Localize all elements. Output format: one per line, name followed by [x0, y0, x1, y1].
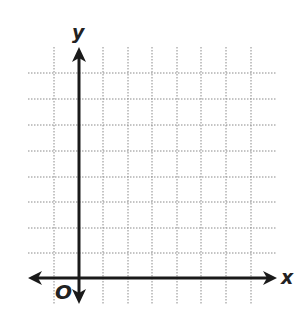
x-axis-label: x	[281, 266, 293, 288]
y-axis-label: y	[72, 21, 84, 43]
y-axis	[72, 47, 86, 304]
origin-label: O	[55, 280, 72, 304]
coordinate-grid	[0, 0, 302, 336]
grid-lines	[28, 47, 277, 305]
